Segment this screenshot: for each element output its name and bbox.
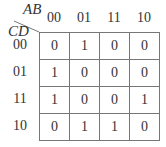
row-header: 10 — [8, 118, 32, 134]
kmap-cell: 0 — [40, 33, 70, 60]
row-header: 00 — [8, 37, 32, 53]
col-header: 11 — [99, 10, 129, 26]
col-header: 10 — [129, 10, 159, 26]
kmap-row: 0 1 0 0 — [40, 33, 160, 60]
kmap-cell: 0 — [100, 60, 130, 87]
kmap-cell: 1 — [40, 60, 70, 87]
kmap-cell: 1 — [70, 33, 100, 60]
kmap-cell: 0 — [130, 33, 160, 60]
kmap-cell: 0 — [40, 114, 70, 141]
kmap-cell: 0 — [70, 87, 100, 114]
kmap-cell: 0 — [100, 33, 130, 60]
kmap-cell: 0 — [100, 87, 130, 114]
kmap-cell: 0 — [130, 114, 160, 141]
col-header: 00 — [39, 10, 69, 26]
karnaugh-map: AB CD 00 01 11 10 00 01 11 10 0 1 0 0 1 … — [0, 0, 166, 147]
kmap-cell: 0 — [70, 60, 100, 87]
kmap-row: 1 0 0 1 — [40, 87, 160, 114]
kmap-grid: 0 1 0 0 1 0 0 0 1 0 0 1 0 1 1 0 — [39, 32, 160, 141]
kmap-cell: 1 — [100, 114, 130, 141]
row-header: 01 — [8, 64, 32, 80]
kmap-cell: 1 — [130, 87, 160, 114]
kmap-row: 1 0 0 0 — [40, 60, 160, 87]
kmap-cell: 1 — [70, 114, 100, 141]
col-header: 01 — [69, 10, 99, 26]
kmap-cell: 1 — [40, 87, 70, 114]
kmap-cell: 0 — [130, 60, 160, 87]
kmap-row: 0 1 1 0 — [40, 114, 160, 141]
row-header: 11 — [8, 91, 32, 107]
